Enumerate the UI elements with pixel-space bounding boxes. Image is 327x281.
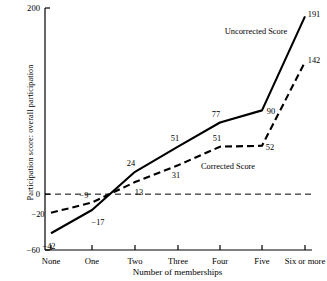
series-annotation: Uncorrected Score bbox=[225, 27, 288, 36]
x-tick-label: Six or more bbox=[285, 256, 326, 266]
x-tick-label: None bbox=[42, 256, 61, 266]
x-tick-label: Four bbox=[212, 256, 228, 266]
y-tick-label: −60 bbox=[12, 245, 40, 255]
data-point-label: −9 bbox=[80, 190, 89, 199]
data-point-label: 191 bbox=[308, 10, 321, 19]
y-tick-label: 200 bbox=[12, 3, 40, 13]
series-annotation: Corrected Score bbox=[201, 162, 255, 171]
data-point-label: 31 bbox=[172, 171, 180, 180]
data-point-label: 24 bbox=[127, 158, 135, 167]
data-point-label: −20 bbox=[31, 209, 44, 218]
y-axis-title: Participation score: overall participati… bbox=[26, 33, 35, 233]
data-point-label: 51 bbox=[171, 133, 179, 142]
x-tick-label: Five bbox=[254, 256, 269, 266]
data-point-label: 13 bbox=[135, 188, 143, 197]
x-tick-label: Two bbox=[127, 256, 142, 266]
series-line-uncorrected-score bbox=[51, 16, 305, 233]
chart-figure: Participation score: overall participati… bbox=[0, 0, 327, 281]
chart-plot-area bbox=[0, 0, 327, 281]
y-tick-label: 0 bbox=[12, 189, 40, 199]
data-point-label: 142 bbox=[308, 55, 321, 64]
data-point-label: −42 bbox=[42, 242, 55, 251]
x-tick-label: Three bbox=[168, 256, 188, 266]
x-axis-title: Number of memberships bbox=[45, 267, 310, 277]
data-point-label: 51 bbox=[213, 133, 221, 142]
data-point-label: 90 bbox=[267, 107, 275, 116]
data-point-label: 52 bbox=[266, 142, 274, 151]
data-point-label: 77 bbox=[212, 110, 220, 119]
data-point-label: −17 bbox=[91, 217, 104, 226]
x-tick-label: One bbox=[85, 256, 99, 266]
